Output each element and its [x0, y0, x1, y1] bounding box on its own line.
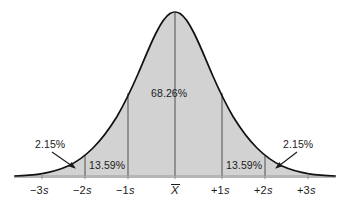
- axis-label-minus-2s-value: −2: [73, 184, 86, 196]
- left-tail-callout-arrow: [52, 152, 76, 169]
- normal-distribution-figure: 68.26% 13.59% 13.59% 2.15% 2.15% −3s −2s…: [0, 0, 350, 207]
- axis-label-plus-3s: +3s: [297, 185, 316, 196]
- axis-label-minus-2s: −2s: [73, 185, 92, 196]
- axis-label-minus-2s-unit: s: [86, 184, 92, 196]
- distribution-curve-graphic: [0, 0, 350, 207]
- axis-label-minus-3s-unit: s: [43, 184, 49, 196]
- axis-label-plus-3s-value: +3: [297, 184, 310, 196]
- right-tail-callout-arrow: [275, 152, 297, 169]
- axis-label-plus-1s-unit: s: [224, 184, 230, 196]
- axis-label-minus-1s: −1s: [116, 185, 135, 196]
- left-tail-percent-label: 2.15%: [35, 139, 65, 150]
- axis-label-plus-1s-value: +1: [211, 184, 224, 196]
- axis-label-minus-3s: −3s: [30, 185, 49, 196]
- axis-label-minus-1s-value: −1: [116, 184, 129, 196]
- axis-label-plus-2s-unit: s: [267, 184, 273, 196]
- axis-label-mean: X: [171, 185, 179, 197]
- right-tail-percent-label: 2.15%: [283, 139, 313, 150]
- center-percent-label: 68.26%: [151, 88, 187, 99]
- axis-label-minus-1s-unit: s: [129, 184, 135, 196]
- left-inner-percent-label: 13.59%: [89, 160, 125, 171]
- axis-label-plus-2s: +2s: [254, 185, 273, 196]
- right-inner-percent-label: 13.59%: [226, 160, 262, 171]
- axis-label-plus-2s-value: +2: [254, 184, 267, 196]
- axis-label-minus-3s-value: −3: [30, 184, 43, 196]
- axis-label-plus-3s-unit: s: [310, 184, 316, 196]
- mean-symbol: X: [171, 185, 179, 197]
- axis-label-plus-1s: +1s: [211, 185, 230, 196]
